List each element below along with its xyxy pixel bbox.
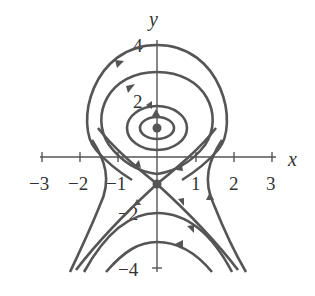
saddle-equilibrium bbox=[153, 180, 162, 189]
y-axis-label: y bbox=[147, 8, 158, 31]
y-tick-label: −4 bbox=[118, 259, 139, 280]
axes bbox=[40, 40, 276, 272]
phase-portrait: y x −3 −2 −1 1 2 3 4 2 −2 −4 bbox=[0, 0, 315, 296]
x-tick-label: 3 bbox=[266, 173, 276, 194]
center-equilibrium bbox=[153, 124, 162, 133]
x-tick-label: −3 bbox=[29, 173, 49, 194]
x-tick-label: −2 bbox=[68, 173, 88, 194]
outer-trajectories bbox=[70, 140, 246, 272]
x-axis-label: x bbox=[287, 148, 297, 170]
x-tick-label: 2 bbox=[229, 173, 239, 194]
